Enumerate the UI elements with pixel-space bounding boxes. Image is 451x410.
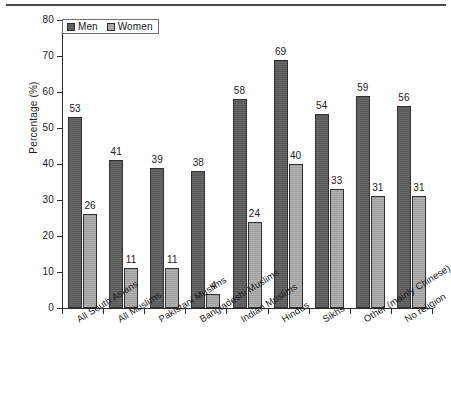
x-category-anchor: Sikhs [321, 316, 322, 317]
bar-value-label: 53 [62, 104, 88, 114]
bar-value-label: 59 [350, 83, 376, 93]
x-tick-mark [62, 309, 63, 314]
bar-chart-figure: Percentage (%) 80706050403020100 5326411… [0, 0, 451, 410]
y-tick-label: 60 [30, 87, 54, 97]
y-tick-label: 10 [30, 267, 54, 277]
top-divider-rule [6, 4, 446, 6]
bar-women [371, 196, 385, 308]
bar-value-label: 56 [391, 93, 417, 103]
y-tick-label: 70 [30, 51, 54, 61]
x-category-anchor: Other (mainly Chinese) [362, 316, 363, 317]
chart-legend: MenWomen [62, 19, 159, 34]
x-tick-mark [432, 309, 433, 314]
bar-men [233, 99, 247, 308]
y-tick-label-text: 70 [30, 51, 54, 61]
bar-men [68, 117, 82, 308]
bar-women [330, 189, 344, 308]
bar-value-label: 40 [283, 151, 309, 161]
x-tick-mark [350, 309, 351, 314]
y-tick-label: 0 [30, 303, 54, 313]
y-tick-label: 40 [30, 159, 54, 169]
bar-value-label: 41 [103, 147, 129, 157]
y-tick-label-text: 60 [30, 87, 54, 97]
y-tick-label-text: 10 [30, 267, 54, 277]
y-tick-label: 30 [30, 195, 54, 205]
y-tick-label: 80 [30, 15, 54, 25]
x-category-anchor: Pakistani Muslims [157, 316, 158, 317]
bar-value-label: 11 [118, 255, 144, 265]
x-category-anchor: Indian Muslims [239, 316, 240, 317]
y-tick-label: 20 [30, 231, 54, 241]
y-tick-label-text: 20 [30, 231, 54, 241]
bar-men [315, 114, 329, 308]
bar-value-label: 31 [406, 183, 432, 193]
x-category-anchor: Hindus [280, 316, 281, 317]
legend-entry-women: Women [107, 22, 153, 32]
bar-men [356, 96, 370, 308]
legend-label: Women [118, 22, 153, 32]
bar-value-label: 58 [227, 86, 253, 96]
bar-men [150, 168, 164, 308]
bar-value-label: 26 [77, 201, 103, 211]
x-category-anchor: All Muslims [116, 316, 117, 317]
bar-value-label: 31 [365, 183, 391, 193]
bar-value-label: 39 [144, 155, 170, 165]
y-tick-label-text: 30 [30, 195, 54, 205]
bar-value-label: 24 [242, 209, 268, 219]
legend-entry-men: Men [67, 22, 98, 32]
legend-label: Men [78, 22, 98, 32]
bar-men [397, 106, 411, 308]
bar-value-label: 69 [268, 47, 294, 57]
bar-value-label: 33 [324, 176, 350, 186]
y-tick-label-text: 40 [30, 159, 54, 169]
x-tick-mark [391, 309, 392, 314]
legend-swatch-men-icon [67, 23, 75, 31]
legend-swatch-women-icon [107, 23, 115, 31]
bar-women [83, 214, 97, 308]
y-tick-label: 50 [30, 123, 54, 133]
y-tick-label-text: 50 [30, 123, 54, 133]
bar-value-label: 38 [185, 158, 211, 168]
x-category-anchor: Bangladeshi Muslims [198, 316, 199, 317]
x-category-anchor: All South Asians [75, 316, 76, 317]
y-tick-label-text: 0 [30, 303, 54, 313]
bar-value-label: 54 [309, 101, 335, 111]
bar-value-label: 11 [159, 255, 185, 265]
y-tick-label-text: 80 [30, 15, 54, 25]
x-category-anchor: No religion [403, 316, 404, 317]
